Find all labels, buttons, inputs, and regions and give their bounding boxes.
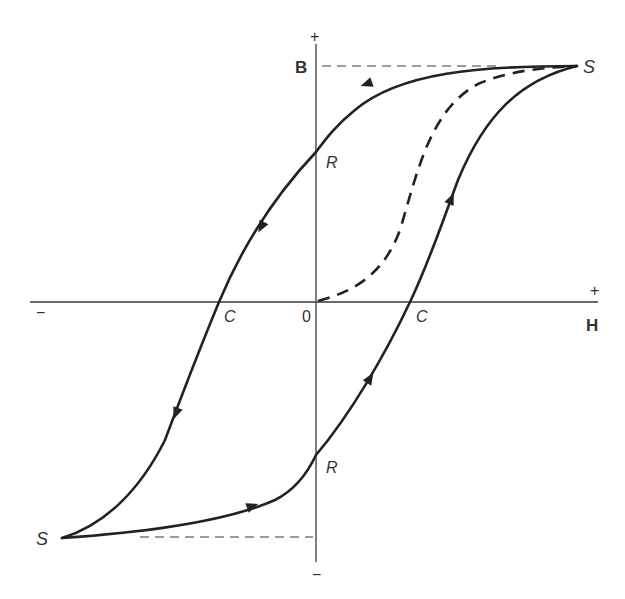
saturation-label-bottom: S [36, 529, 48, 549]
h-axis-label: H [586, 316, 598, 335]
saturation-label-top: S [583, 57, 595, 77]
coercivity-label-right: C [416, 308, 428, 325]
origin-label: 0 [302, 308, 311, 325]
initial-magnetization-curve [318, 66, 577, 301]
b-axis-positive-sign: + [310, 28, 319, 45]
arrow-icon [444, 191, 458, 206]
remanence-label-bottom: R [326, 459, 338, 476]
coercivity-label-left: C [224, 308, 236, 325]
h-axis-negative-sign: − [36, 304, 45, 321]
b-axis-negative-sign: − [312, 566, 321, 583]
h-axis-positive-sign: + [590, 282, 599, 299]
hysteresis-diagram: + − + − B H 0 S S R R C C [0, 0, 625, 599]
b-axis-label: B [295, 58, 307, 77]
remanence-label-top: R [326, 154, 338, 171]
arrow-icon [169, 406, 183, 421]
arrow-icon [359, 77, 374, 91]
